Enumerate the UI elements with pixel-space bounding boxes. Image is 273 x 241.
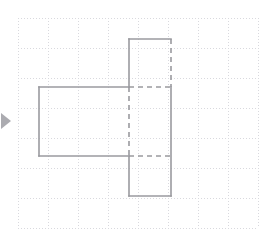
geometry-figure-svg (0, 0, 273, 241)
left-edge-arrow-marker (1, 113, 11, 129)
figure-canvas (0, 0, 273, 241)
left-edge-arrow (1, 113, 11, 129)
figure-solid-edges (39, 39, 171, 196)
